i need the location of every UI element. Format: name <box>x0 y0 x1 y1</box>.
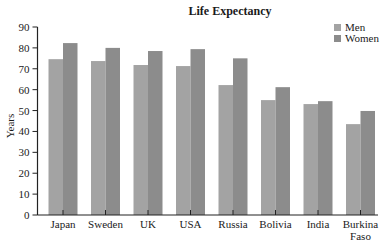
bar-men-bolivia <box>261 100 276 215</box>
bar-men-uk <box>134 65 149 215</box>
x-tick-label: USA <box>179 218 201 230</box>
bar-men-usa <box>176 66 191 215</box>
x-tick-label: UK <box>140 218 156 230</box>
x-tick-label: India <box>307 218 330 230</box>
legend-item-women: Women <box>334 33 379 44</box>
bar-men-sweden <box>91 61 106 215</box>
bar-men-japan <box>49 59 64 215</box>
y-tick-label: 30 <box>19 146 31 158</box>
bar-women-burkina-faso <box>361 111 376 215</box>
y-tick-label: 80 <box>19 42 31 54</box>
y-tick-label: 20 <box>19 167 31 179</box>
bar-women-bolivia <box>276 87 291 215</box>
bar-men-burkina-faso <box>346 124 361 215</box>
y-tick-label: 60 <box>19 84 31 96</box>
bar-women-japan <box>63 43 78 215</box>
bar-women-uk <box>148 51 163 215</box>
y-tick-label: 0 <box>24 209 30 221</box>
y-tick-label: 50 <box>19 105 31 117</box>
bar-men-india <box>304 104 319 215</box>
y-tick-label: 10 <box>19 188 31 200</box>
legend: Men Women <box>334 22 379 44</box>
plot-area: JapanSwedenUKUSARussiaBoliviaIndiaBurkin… <box>0 0 386 242</box>
bar-men-russia <box>219 85 234 215</box>
legend-swatch-men <box>334 24 341 31</box>
y-tick-label: 70 <box>19 63 31 75</box>
bar-women-russia <box>233 58 248 215</box>
x-tick-label: Faso <box>350 230 371 242</box>
legend-swatch-women <box>334 35 341 42</box>
bar-women-usa <box>191 49 206 215</box>
x-tick-label: Burkina <box>343 218 379 230</box>
x-tick-label: Bolivia <box>259 218 292 230</box>
y-tick-label: 40 <box>19 125 31 137</box>
x-tick-label: Sweden <box>88 218 123 230</box>
life-expectancy-chart: Life Expectancy Years JapanSwedenUKUSARu… <box>0 0 386 242</box>
legend-label-women: Women <box>345 33 379 44</box>
x-tick-label: Japan <box>50 218 76 230</box>
y-tick-label: 90 <box>19 21 31 33</box>
x-tick-label: Russia <box>218 218 247 230</box>
bar-women-india <box>318 101 333 215</box>
bar-women-sweden <box>106 48 121 215</box>
